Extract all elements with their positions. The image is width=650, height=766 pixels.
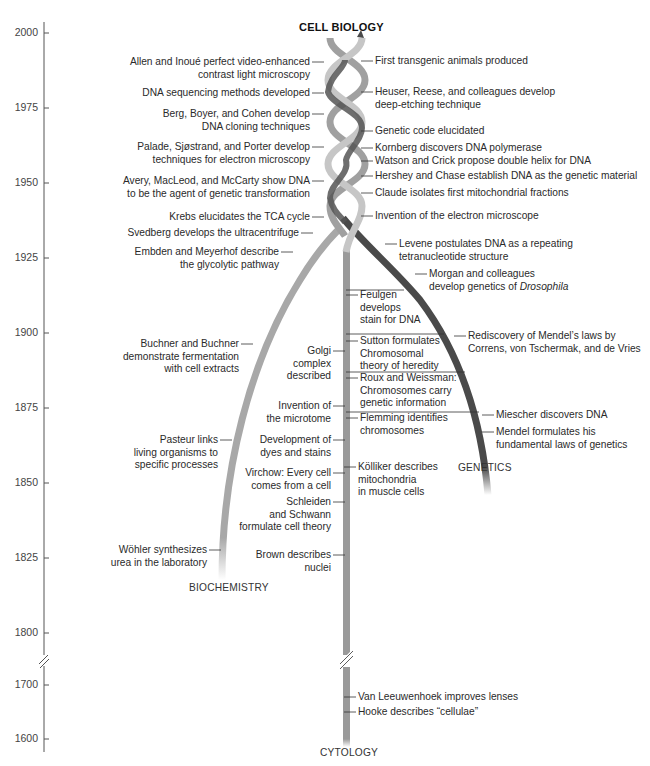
year-axis (39, 22, 49, 752)
event-label: Wöhler synthesizes urea in the laborator… (111, 544, 207, 569)
event-label: Kölliker describes mitochondria in muscl… (358, 461, 438, 499)
event-label: Golgi complex described (287, 345, 331, 383)
event-label: Morgan and colleagues develop genetics o… (429, 268, 568, 293)
event-label: Virchow: Every cell comes from a cell (245, 467, 331, 492)
axis-tick-label: 2000 (2, 26, 38, 38)
event-label: Heuser, Reese, and colleagues develop de… (375, 86, 555, 111)
event-label: Embden and Meyerhof describe the glycoly… (135, 246, 279, 271)
event-label: Hershey and Chase establish DNA as the g… (375, 170, 637, 183)
axis-tick-label: 1950 (2, 176, 38, 188)
event-label: Van Leeuwenhoek improves lenses (358, 691, 518, 704)
event-label: Claude isolates first mitochondrial frac… (375, 187, 569, 200)
event-label: Hooke describes “cellulae” (358, 706, 478, 719)
event-label: Berg, Boyer, and Cohen develop DNA cloni… (163, 108, 310, 133)
event-label: Miescher discovers DNA (496, 409, 608, 422)
event-label: Kornberg discovers DNA polymerase (375, 142, 542, 155)
event-label: Levene postulates DNA as a repeating tet… (399, 238, 573, 263)
axis-tick-label: 1875 (2, 401, 38, 413)
axis-tick-label: 1975 (2, 101, 38, 113)
branch-label-cytology: CYTOLOGY (320, 747, 378, 758)
event-label: Development of dyes and stains (260, 434, 331, 459)
event-label: Invention of the electron microscope (375, 210, 539, 223)
axis-tick-label: 1800 (2, 626, 38, 638)
cytology-strand (340, 250, 353, 747)
branch-label-genetics: GENETICS (458, 462, 512, 473)
event-label: Flemming identifies chromosomes (360, 412, 448, 437)
event-label: Svedberg develops the ultracentrifuge (127, 227, 299, 240)
axis-tick-label: 1825 (2, 551, 38, 563)
event-label: Genetic code elucidated (375, 125, 484, 138)
event-label: DNA sequencing methods developed (142, 87, 310, 100)
event-label: Feulgen develops stain for DNA (360, 289, 421, 327)
event-label: Sutton formulates Chromosomal theory of … (360, 335, 440, 373)
event-label: Allen and Inoué perfect video-enhanced c… (130, 56, 310, 81)
event-label: Mendel formulates his fundamental laws o… (496, 426, 627, 451)
event-label: Rediscovery of Mendel’s laws by Correns,… (468, 330, 641, 355)
axis-tick-label: 1925 (2, 251, 38, 263)
axis-tick-label: 1700 (2, 678, 38, 690)
event-label: Brown describes nuclei (256, 549, 331, 574)
event-label: First transgenic animals produced (375, 55, 528, 68)
cell-biology-timeline-diagram (0, 0, 650, 766)
axis-tick-label: 1600 (2, 732, 38, 744)
event-label: Palade, Sjøstrand, and Porter develop te… (137, 141, 310, 166)
event-label: Buchner and Buchner demonstrate fermenta… (123, 338, 239, 376)
event-label: Invention of the microtome (266, 400, 331, 425)
event-label: Krebs elucidates the TCA cycle (169, 211, 310, 224)
axis-tick-label: 1900 (2, 326, 38, 338)
event-label: Watson and Crick propose double helix fo… (375, 155, 591, 168)
event-label: Roux and Weissman: Chromosomes carry gen… (360, 372, 457, 410)
axis-tick-label: 1850 (2, 476, 38, 488)
diagram-title: CELL BIOLOGY (299, 21, 384, 33)
branch-label-biochemistry: BIOCHEMISTRY (189, 582, 269, 593)
event-label: Avery, MacLeod, and McCarty show DNA to … (123, 175, 310, 200)
italic-term: Drosophila (520, 281, 569, 292)
event-label: Schleiden and Schwann formulate cell the… (239, 496, 331, 534)
event-label: Pasteur links living organisms to specif… (134, 434, 218, 472)
